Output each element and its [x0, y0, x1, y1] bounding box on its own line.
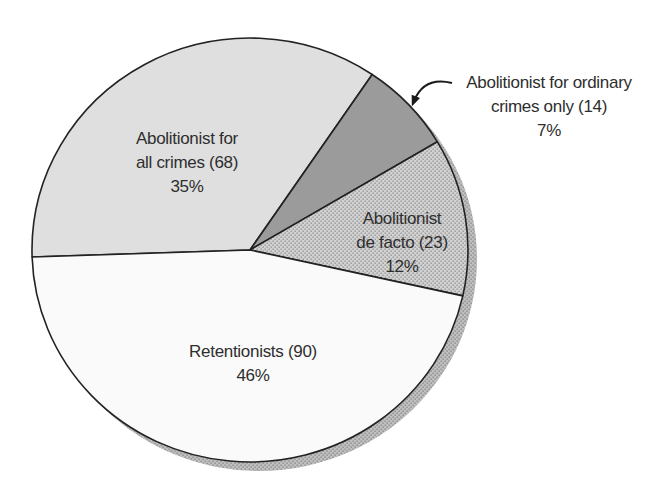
slice-label-line: all crimes (68) [136, 151, 238, 175]
slice-label-percent: 12% [356, 255, 448, 279]
slice-label-percent: 35% [136, 175, 238, 199]
slice-label-abolitionist-de-facto: Abolitionist de facto (23) 12% [356, 207, 448, 279]
callout-arrowhead-icon [412, 95, 420, 107]
slice-label-abolitionist-ordinary-crimes: Abolitionist for ordinary crimes only (1… [466, 71, 631, 143]
slice-label-line: crimes only (14) [466, 95, 631, 119]
slice-label-retentionists: Retentionists (90) 46% [189, 340, 317, 388]
callout-arrow [412, 81, 452, 106]
slice-label-line: Abolitionist for ordinary [466, 71, 631, 95]
slice-label-percent: 46% [189, 364, 317, 388]
slice-label-abolitionist-all-crimes: Abolitionist for all crimes (68) 35% [136, 127, 238, 199]
slice-label-line: Abolitionist [356, 207, 448, 231]
slice-label-line: de facto (23) [356, 231, 448, 255]
slice-label-line: Abolitionist for [136, 127, 238, 151]
slice-label-percent: 7% [466, 119, 631, 143]
slice-label-line: Retentionists (90) [189, 340, 317, 364]
pie-chart-figure: Abolitionist for all crimes (68) 35% Abo… [0, 0, 668, 498]
